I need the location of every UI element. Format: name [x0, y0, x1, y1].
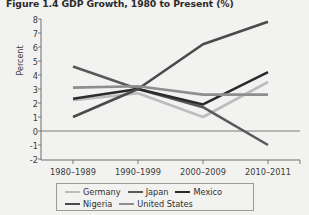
chart-legend: Germany Japan Mexico Nigeria United Stat…	[56, 183, 254, 211]
series-line-nigeria	[73, 22, 268, 117]
legend-swatch-united-states	[119, 203, 134, 206]
legend-label-mexico: Mexico	[193, 187, 222, 197]
legend-item-germany[interactable]: Germany	[65, 187, 121, 197]
legend-swatch-nigeria	[65, 203, 80, 206]
legend-swatch-germany	[65, 191, 80, 194]
legend-label-united-states: United States	[137, 199, 192, 209]
legend-item-japan[interactable]: Japan	[128, 187, 169, 197]
legend-label-japan: Japan	[146, 187, 169, 197]
x-axis-tickmarks	[73, 160, 300, 164]
legend-label-germany: Germany	[83, 187, 121, 197]
legend-item-nigeria[interactable]: Nigeria	[65, 199, 112, 209]
x-tick-label: 2000–2009	[175, 167, 231, 177]
legend-row-2: Nigeria United States	[65, 199, 200, 209]
legend-row-1: Germany Japan Mexico	[65, 187, 229, 197]
legend-item-mexico[interactable]: Mexico	[175, 187, 222, 197]
legend-swatch-japan	[128, 191, 143, 194]
x-tick-label: 2010–2011	[240, 167, 296, 177]
legend-label-nigeria: Nigeria	[83, 199, 112, 209]
x-tick-label: 1980–1989	[45, 167, 101, 177]
figure-container: Figure 1.4 GDP Growth, 1980 to Present (…	[0, 0, 309, 215]
data-series-layer	[73, 22, 268, 145]
x-tick-label: 1990–1999	[110, 167, 166, 177]
legend-item-united-states[interactable]: United States	[119, 199, 192, 209]
legend-swatch-mexico	[175, 191, 190, 194]
